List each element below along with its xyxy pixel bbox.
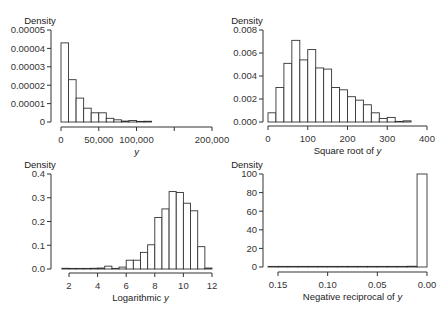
x-tick-label: 0	[265, 133, 270, 144]
histogram-bar	[144, 121, 152, 122]
x-tick-label: 10	[178, 280, 189, 291]
histogram-bar	[91, 113, 99, 122]
histogram-bar	[338, 266, 348, 267]
y-tick-label: 0.002	[233, 93, 257, 104]
histogram-bar	[328, 266, 338, 267]
histogram-bar	[191, 211, 198, 269]
y-tick-label: 0	[252, 261, 257, 272]
histogram-bar	[69, 268, 76, 269]
histogram-bar	[183, 203, 190, 269]
histogram-bar	[176, 193, 183, 269]
histogram-bar	[133, 260, 140, 269]
histogram-bar	[276, 88, 284, 123]
histogram-bar	[340, 90, 348, 122]
histogram-bar	[119, 267, 126, 269]
histogram-bar	[105, 266, 112, 269]
y-tick-label: 0.00004	[11, 43, 45, 54]
histogram-bar	[268, 266, 278, 267]
histogram-bar	[284, 63, 292, 122]
x-tick-label: 100,000	[119, 134, 153, 145]
histogram-bar	[308, 266, 318, 267]
y-tick-label: 0.00002	[11, 80, 45, 91]
histogram-bar	[377, 266, 387, 267]
histogram-bar	[403, 121, 411, 122]
histogram-bar	[357, 266, 367, 267]
x-tick-label: 400	[419, 133, 435, 144]
y-tick-label: 60	[246, 206, 257, 217]
histogram-bar	[417, 174, 427, 267]
x-axis-label: y	[133, 146, 140, 157]
x-tick-label: 100	[300, 133, 316, 144]
histogram-bars	[61, 43, 152, 122]
y-tick-label: 0.2	[32, 216, 45, 227]
histogram-bar	[332, 88, 340, 123]
x-tick-label: 0.10	[318, 279, 337, 290]
histogram-bar	[300, 60, 308, 122]
histogram-bar	[292, 40, 300, 122]
panel-bottom-right: 020406080100Density0.150.100.050.00Negat…	[231, 159, 436, 302]
y-axis-label: Density	[231, 159, 263, 170]
histogram-bar	[308, 50, 316, 122]
panel-top-left: 00.000010.000020.000030.000040.00005Dens…	[11, 15, 230, 157]
x-tick-label: 8	[152, 280, 157, 291]
x-axis-label: Negative reciprocal of y	[303, 291, 404, 302]
panel-top-right: 0.0000.0020.0040.0060.008Density01002003…	[231, 15, 435, 156]
histogram-bar	[298, 266, 308, 267]
y-tick-label: 0.00001	[11, 98, 45, 109]
histogram-bar	[205, 268, 212, 269]
histogram-bar	[363, 105, 371, 122]
histogram-bar	[90, 268, 97, 269]
histogram-bar	[278, 266, 288, 267]
x-axis-label: Square root of y	[314, 145, 383, 156]
histogram-bar	[106, 118, 114, 122]
y-tick-label: 0.3	[32, 192, 45, 203]
histogram-bar	[397, 266, 407, 267]
histogram-bar	[387, 117, 395, 122]
y-axis-label: Density	[24, 159, 56, 170]
histogram-bar	[141, 252, 148, 269]
x-tick-label: 12	[207, 280, 218, 291]
histogram-bar	[288, 266, 298, 267]
histogram-bar	[348, 266, 358, 267]
y-tick-label: 0.00003	[11, 61, 45, 72]
histogram-bar	[367, 266, 377, 267]
histogram-bar	[98, 268, 105, 269]
panel-bottom-left: 0.00.10.20.30.4Density24681012Logarithmi…	[24, 159, 217, 303]
histogram-bar	[379, 119, 387, 122]
x-tick-label: 4	[95, 280, 100, 291]
histogram-bar	[324, 69, 332, 122]
x-tick-label: 0	[58, 134, 63, 145]
histogram-bar	[76, 268, 83, 269]
x-tick-label: 0.15	[269, 279, 288, 290]
figure-histogram-grid: 00.000010.000020.000030.000040.00005Dens…	[0, 0, 446, 318]
histogram-bar	[268, 113, 276, 122]
x-tick-label: 6	[124, 280, 129, 291]
histogram-bar	[114, 120, 122, 122]
histogram-bar	[126, 260, 133, 269]
histogram-bar	[137, 121, 145, 122]
histogram-bar	[99, 113, 107, 122]
histogram-bar	[371, 113, 379, 122]
histogram-bar	[198, 247, 205, 269]
y-tick-label: 40	[246, 224, 257, 235]
x-tick-label: 200,000	[195, 134, 229, 145]
histogram-bar	[84, 108, 92, 122]
histogram-bar	[318, 266, 328, 267]
histogram-bars	[268, 174, 427, 267]
histogram-bar	[162, 209, 169, 269]
histogram-bar	[169, 192, 176, 269]
y-tick-label: 0.0	[32, 263, 45, 274]
x-tick-label: 0.05	[368, 279, 387, 290]
histogram-bar	[407, 266, 417, 267]
histogram-bar	[69, 80, 77, 122]
y-tick-label: 0.004	[233, 70, 257, 81]
histogram-bars	[62, 192, 212, 269]
y-tick-label: 0.006	[233, 47, 257, 58]
y-tick-label: 20	[246, 243, 257, 254]
histogram-bar	[387, 266, 397, 267]
y-tick-label: 0	[40, 116, 45, 127]
y-tick-label: 0.1	[32, 240, 45, 251]
x-axis-label: Logarithmic y	[112, 292, 170, 303]
histogram-bar	[129, 121, 137, 122]
histogram-bar	[348, 97, 356, 122]
